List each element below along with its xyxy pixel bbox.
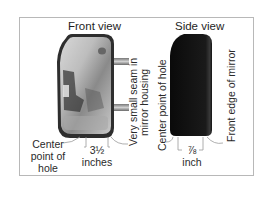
seam-label-line2: mirror housing: [139, 58, 150, 146]
front-view-title: Front view: [68, 20, 121, 32]
center-label-line2: point of: [28, 150, 68, 162]
center-label-line1: Center: [28, 138, 68, 150]
front-edge-label: Front edge of mirror: [226, 49, 237, 142]
front-mirror-icon: [57, 34, 114, 138]
side-center-label: Center point of hole: [157, 59, 168, 151]
side-dimension-unit: inch: [180, 156, 204, 168]
side-view-title: Side view: [175, 20, 224, 32]
front-dimension-value: 3½: [86, 144, 108, 156]
front-center-label: Center point of hole: [28, 138, 68, 174]
front-dimension-unit: inches: [80, 156, 114, 168]
side-dimension-value: ⅞: [182, 144, 202, 156]
side-mirror-icon: [170, 34, 212, 136]
center-label-line3: hole: [28, 162, 68, 174]
seam-label: Very small seam in mirror housing: [128, 58, 150, 146]
